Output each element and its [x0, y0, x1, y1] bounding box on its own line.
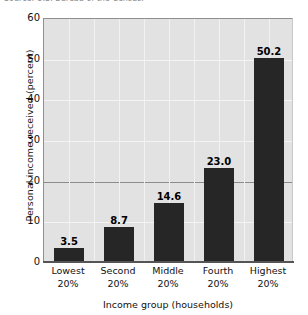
x-tick-label-line: 20% [143, 278, 193, 291]
y-tick-label: 40 [2, 94, 40, 104]
x-tick-label-line: Highest [243, 265, 293, 278]
y-tick-label: 0 [2, 257, 40, 267]
x-axis-title: Income group (households) [43, 299, 293, 310]
x-tick-label: Second20% [93, 265, 143, 290]
bar [154, 203, 184, 262]
plot-area: 3.58.714.623.050.2 [43, 18, 293, 262]
bar [54, 248, 84, 262]
y-tick-label: 50 [2, 54, 40, 64]
bar-value-label: 8.7 [95, 216, 143, 226]
x-tick-label-line: 20% [93, 278, 143, 291]
x-axis-ticks: Lowest20%Second20%Middle20%Fourth20%High… [43, 265, 293, 297]
bar [204, 168, 234, 262]
bar-value-label: 50.2 [245, 47, 293, 57]
bar-value-label: 3.5 [45, 237, 93, 247]
x-tick-label-line: 20% [243, 278, 293, 291]
x-axis-line [43, 261, 294, 263]
gridline-vertical [144, 19, 145, 262]
y-tick-label: 30 [2, 135, 40, 145]
bar-chart-figure: Source: U.S. Bureau of the Census. Perso… [0, 0, 308, 315]
bar-value-label: 14.6 [145, 192, 193, 202]
bar [104, 227, 134, 262]
gridline-vertical [69, 19, 70, 262]
x-tick-label: Highest20% [243, 265, 293, 290]
y-axis-ticks: 0102030405060 [0, 18, 40, 262]
y-tick-label: 60 [2, 13, 40, 23]
x-tick-label: Fourth20% [193, 265, 243, 290]
y-tick-label: 10 [2, 216, 40, 226]
x-tick-label-line: Lowest [43, 265, 93, 278]
bar-value-label: 23.0 [195, 157, 243, 167]
x-tick-label-line: 20% [43, 278, 93, 291]
x-tick-label-line: Second [93, 265, 143, 278]
cropped-source-caption: Source: U.S. Bureau of the Census. [4, 0, 194, 3]
cropped-source-caption-text: Source: U.S. Bureau of the Census. [4, 0, 144, 3]
x-tick-label: Middle20% [143, 265, 193, 290]
x-tick-label: Lowest20% [43, 265, 93, 290]
x-tick-label-line: Middle [143, 265, 193, 278]
y-tick-label: 20 [2, 176, 40, 186]
gridline-vertical [194, 19, 195, 262]
x-tick-label-line: 20% [193, 278, 243, 291]
x-tick-label-line: Fourth [193, 265, 243, 278]
bar [254, 58, 284, 262]
